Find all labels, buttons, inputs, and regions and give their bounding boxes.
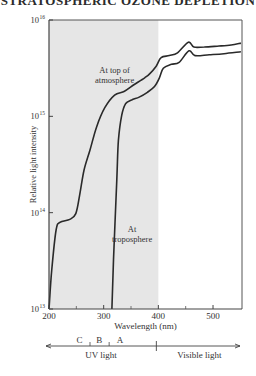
y-tick-label: 10 — [31, 15, 40, 25]
series-label-top-of-atmosphere: atmosphere — [95, 75, 134, 85]
series-label-troposphere: At — [128, 224, 137, 234]
x-tick-label: 200 — [42, 311, 56, 321]
uv-shaded-region — [49, 20, 158, 309]
y-tick-label: 10 — [31, 111, 40, 121]
y-tick-exponent: 14 — [40, 207, 46, 213]
y-tick-exponent: 16 — [40, 14, 46, 20]
uv-band-label: C — [77, 335, 83, 345]
x-tick-label: 300 — [97, 311, 111, 321]
x-tick-label: 400 — [152, 311, 166, 321]
series-label-troposphere: troposphere — [112, 234, 152, 244]
series-label-top-of-atmosphere: At top of — [99, 65, 130, 75]
y-tick-label: 10 — [31, 208, 40, 218]
spectrum-chart: 2003004005001016101510141013 Wavelength … — [0, 0, 256, 376]
uv-band-label: A — [117, 335, 124, 345]
y-tick-exponent: 13 — [40, 303, 46, 309]
y-tick-exponent: 15 — [40, 110, 46, 116]
y-tick-label: 10 — [31, 304, 40, 314]
y-axis-label: Relative light intensity — [28, 125, 38, 203]
uv-light-label: UV light — [85, 350, 117, 360]
x-axis-label: Wavelength (nm) — [114, 321, 177, 331]
uv-band-label: B — [96, 335, 102, 345]
visible-light-label: Visible light — [177, 350, 222, 360]
x-tick-label: 500 — [206, 311, 220, 321]
